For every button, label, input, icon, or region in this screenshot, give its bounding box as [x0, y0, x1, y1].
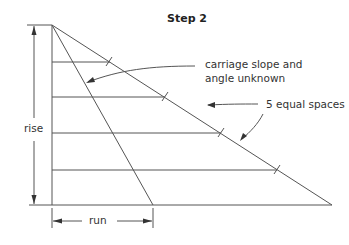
equal-spaces-arrow-2-icon [240, 133, 247, 141]
equal-spaces-arrow-1-icon [207, 102, 215, 108]
hypotenuse-line [52, 25, 332, 205]
equal-spaces-leader-1 [208, 104, 258, 105]
carriage-label-line1: carriage slope and [205, 58, 303, 71]
rise-arrow-up-icon [32, 26, 37, 35]
rise-arrow-down-icon [32, 195, 37, 204]
equal-spaces-label: 5 equal spaces [266, 98, 345, 111]
carriage-leader [88, 66, 195, 82]
carriage-line [52, 25, 153, 205]
run-label: run [89, 214, 107, 227]
run-arrow-right-icon [143, 219, 152, 224]
rise-label: rise [24, 122, 43, 135]
run-arrow-left-icon [53, 219, 62, 224]
stair-layout-diagram [0, 0, 349, 245]
carriage-leader-arrow-icon [86, 77, 95, 83]
carriage-label-line2: angle unknown [205, 72, 285, 85]
